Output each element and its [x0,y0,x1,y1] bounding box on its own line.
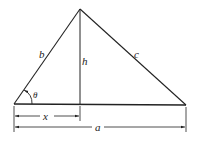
label-x: x [42,110,48,122]
triangle-diagram: b h c θ x a [0,0,197,142]
angle-arc [24,90,32,104]
side-c [80,9,186,105]
label-h: h [82,55,88,67]
label-c: c [134,48,139,60]
label-theta: θ [33,90,38,100]
label-b: b [39,48,45,60]
label-a: a [95,121,101,133]
base-a [14,104,186,105]
side-b [14,9,80,104]
